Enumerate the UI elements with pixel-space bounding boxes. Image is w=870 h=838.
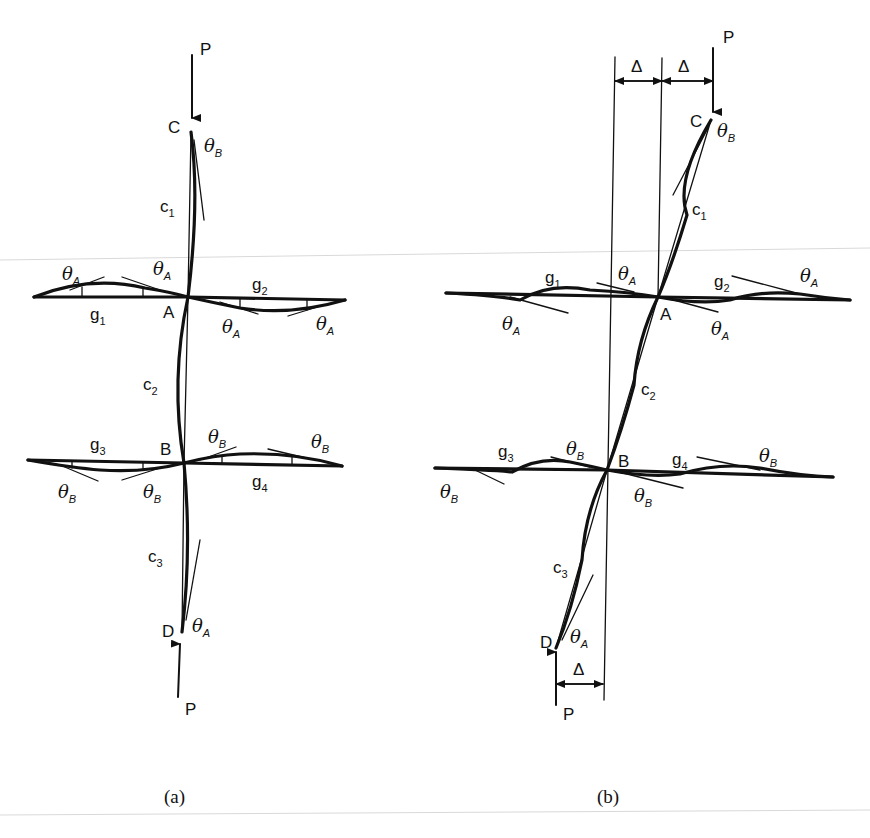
scan-artifact-line <box>0 248 870 260</box>
scan-artifact-line <box>0 810 870 815</box>
tangent-line <box>673 128 708 195</box>
node-label-c: C <box>168 118 180 137</box>
member-label-g1: g1 <box>90 305 106 327</box>
rotation-label-thetaB: θB <box>566 438 584 462</box>
member-label-c3: c3 <box>553 558 568 580</box>
rotation-label-thetaB: θB <box>208 426 226 450</box>
node-label-a: A <box>660 305 672 324</box>
rotation-label-thetaB: θB <box>717 120 735 144</box>
load-label-bottom: P <box>185 700 196 719</box>
node-label-b: B <box>160 440 171 459</box>
node-label-d: D <box>162 622 174 641</box>
delta-label: Δ <box>631 57 642 76</box>
member-label-g1: g1 <box>545 268 561 290</box>
member-label-c1: c1 <box>692 200 707 222</box>
rotation-label-thetaA: θA <box>711 318 729 342</box>
caption-b: (b) <box>597 786 619 808</box>
rotation-label-thetaB: θB <box>58 481 76 505</box>
rotation-label-thetaA: θA <box>153 258 171 282</box>
member-label-g2: g2 <box>714 272 730 294</box>
rotation-label-thetaB: θB <box>634 485 652 509</box>
node-label-d: D <box>540 633 552 652</box>
reference-line-left <box>604 57 615 700</box>
member-label-g2: g2 <box>252 275 268 297</box>
member-label-c1: c1 <box>160 197 175 219</box>
reference-line-middle <box>658 58 662 297</box>
rotation-label-thetaA: θA <box>502 313 520 337</box>
rotation-label-thetaA: θA <box>316 313 334 337</box>
node-label-b: B <box>618 452 629 471</box>
delta-label: Δ <box>678 57 689 76</box>
load-label-bottom: P <box>563 705 574 724</box>
tangent-line <box>510 297 568 313</box>
rotation-label-thetaB: θB <box>311 431 329 455</box>
member-label-g3: g3 <box>498 442 514 464</box>
rotation-label-thetaA: θA <box>618 263 636 287</box>
load-label-top: P <box>723 28 734 47</box>
rotation-label-thetaA: θA <box>62 263 80 287</box>
rotation-label-thetaA: θA <box>192 615 210 639</box>
figure-a-symmetric-mode: P C c1 θB θA θA g1 A g2 θA θA c2 <box>28 40 345 808</box>
rotation-label-thetaB: θB <box>143 481 161 505</box>
node-label-c: C <box>690 112 702 131</box>
member-label-c3: c3 <box>148 547 163 569</box>
girder-g4-chord <box>184 463 342 466</box>
load-arrow-bottom <box>178 644 180 697</box>
girder-g1-deflected <box>34 283 188 297</box>
delta-label: Δ <box>573 660 584 679</box>
rotation-label-thetaB: θB <box>759 445 777 469</box>
caption-a: (a) <box>164 786 185 808</box>
rotation-label-thetaA: θA <box>570 626 588 650</box>
girder-g2-chord <box>188 297 345 300</box>
rotation-label-thetaB: θB <box>204 135 222 159</box>
member-label-c2: c2 <box>143 375 158 397</box>
tangent-line <box>732 276 800 294</box>
member-label-g4: g4 <box>672 450 688 472</box>
member-label-g3: g3 <box>90 435 106 457</box>
rotation-label-thetaB: θB <box>440 481 458 505</box>
load-label-top: P <box>200 40 211 59</box>
member-label-g4: g4 <box>252 472 268 494</box>
rotation-label-thetaA: θA <box>222 316 240 340</box>
member-label-c2: c2 <box>641 380 656 402</box>
node-label-a: A <box>163 303 175 322</box>
frame-deformation-diagram: P C c1 θB θA θA g1 A g2 θA θA c2 <box>0 0 870 838</box>
rotation-label-thetaA: θA <box>800 265 818 289</box>
figure-b-sway-mode: P Δ Δ C θB c1 g1 θA θA A g2 θA θA <box>435 28 850 808</box>
